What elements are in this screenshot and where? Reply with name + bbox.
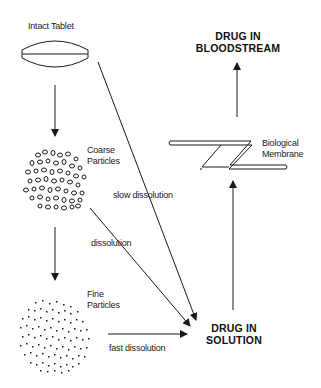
fine-particles-label: Fine Particles	[87, 289, 120, 311]
dissolution-label: dissolution	[91, 238, 131, 249]
fine-particles-icon	[20, 300, 90, 374]
drug-in-solution-line1: DRUG IN	[204, 322, 264, 334]
tablet-icon	[22, 41, 88, 67]
fine-particles-label-line1: Fine	[87, 289, 120, 300]
intact-tablet-label: Intact Tablet	[28, 21, 74, 32]
drug-in-solution-label: DRUG IN SOLUTION	[204, 322, 264, 346]
biological-membrane-line1: Biological	[262, 138, 303, 149]
fast-dissolution-label: fast dissolution	[109, 343, 165, 354]
drug-in-bloodstream-line1: DRUG IN	[190, 30, 286, 42]
drug-in-bloodstream-line2: BLOODSTREAM	[190, 42, 286, 54]
biological-membrane-line2: Membrane	[262, 149, 303, 160]
coarse-particles-label-line2: Particles	[87, 156, 120, 167]
slow-dissolution-label: slow dissolution	[113, 190, 173, 201]
drug-in-solution-line2: SOLUTION	[204, 334, 264, 346]
membrane-inner-icon	[202, 145, 229, 167]
coarse-particles-label-line1: Coarse	[87, 145, 120, 156]
fine-particles-label-line2: Particles	[87, 300, 120, 311]
biological-membrane-label: Biological Membrane	[262, 138, 303, 160]
coarse-particles-icon	[24, 150, 87, 210]
drug-in-bloodstream-label: DRUG IN BLOODSTREAM	[190, 30, 286, 54]
coarse-particles-label: Coarse Particles	[87, 145, 120, 167]
